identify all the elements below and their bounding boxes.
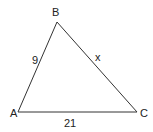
vertex-label-b: B xyxy=(52,6,59,18)
triangle-abc xyxy=(18,22,137,112)
side-label-ac: 21 xyxy=(64,117,76,129)
vertex-label-a: A xyxy=(10,107,18,119)
side-label-bc: x xyxy=(95,51,101,63)
triangle-diagram: A B C 9 x 21 xyxy=(0,0,153,132)
vertex-label-c: C xyxy=(140,107,148,119)
side-label-ab: 9 xyxy=(32,54,38,66)
